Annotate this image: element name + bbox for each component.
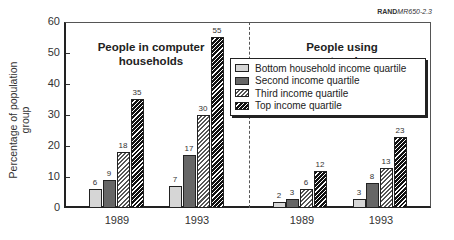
panel-title-line: People in computer: [86, 40, 216, 54]
legend-label: Third income quartile: [255, 88, 348, 99]
value-label: 55: [207, 26, 227, 35]
bar-p2-1989-second: [286, 199, 299, 208]
bar-p1-1989-bottom: [89, 189, 102, 208]
source-prefix: RAND: [377, 8, 397, 15]
legend-label: Top income quartile: [255, 100, 342, 111]
value-label: 8: [362, 172, 382, 181]
value-label: 18: [113, 141, 133, 150]
x-label-1989-networks: 1989: [282, 214, 322, 226]
bar-p2-1993-bottom: [353, 199, 366, 208]
y-tick-30: 30: [42, 108, 60, 120]
value-label: 3: [282, 188, 302, 197]
bar-p2-1989-top: [314, 171, 327, 208]
legend-item-third: Third income quartile: [235, 87, 421, 100]
value-label: 17: [179, 144, 199, 153]
value-label: 30: [193, 104, 213, 113]
value-label: 23: [390, 126, 410, 135]
y-tick-60: 60: [42, 15, 60, 27]
value-label: 6: [296, 178, 316, 187]
legend-label: Bottom household income quartile: [255, 63, 406, 74]
value-label: 3: [349, 188, 369, 197]
bar-p1-1989-top: [131, 99, 144, 208]
bar-p1-1993-third: [197, 115, 210, 208]
chart-legend: Bottom household income quartile Second …: [230, 58, 426, 116]
value-label: 7: [165, 175, 185, 184]
y-tick-20: 20: [42, 139, 60, 151]
value-label: 35: [127, 88, 147, 97]
panel-title-line: households: [86, 54, 216, 68]
value-label: 13: [376, 157, 396, 166]
figure-source-id: RANDMR650-2.3: [377, 8, 432, 15]
legend-item-bottom: Bottom household income quartile: [235, 62, 421, 75]
x-label-1989-computer: 1989: [97, 214, 137, 226]
value-label: 12: [310, 160, 330, 169]
legend-item-top: Top income quartile: [235, 100, 421, 113]
value-label: 9: [99, 169, 119, 178]
y-tick-0: 0: [42, 201, 60, 213]
legend-swatch: [235, 77, 249, 85]
bar-p1-1993-bottom: [169, 186, 182, 208]
x-label-1993-networks: 1993: [361, 214, 401, 226]
y-tick-10: 10: [42, 170, 60, 182]
value-label: 6: [85, 178, 105, 187]
bar-p1-1989-third: [117, 152, 130, 208]
y-tick-40: 40: [42, 77, 60, 89]
legend-swatch: [235, 102, 249, 110]
bar-p2-1993-top: [394, 137, 407, 208]
x-label-1993-computer: 1993: [177, 214, 217, 226]
bar-p1-1993-top: [211, 37, 224, 208]
y-tick-50: 50: [42, 46, 60, 58]
panel-title-computer-households: People in computer households: [86, 40, 216, 68]
legend-swatch: [235, 89, 249, 97]
y-axis-label: Percentage of population group: [7, 55, 31, 185]
source-code: MR650-2.3: [397, 8, 432, 15]
legend-swatch: [235, 64, 249, 72]
bar-p2-1989-bottom: [273, 202, 286, 208]
legend-label: Second income quartile: [255, 75, 360, 86]
panel-title-line: People using: [282, 40, 402, 54]
legend-item-second: Second income quartile: [235, 75, 421, 88]
